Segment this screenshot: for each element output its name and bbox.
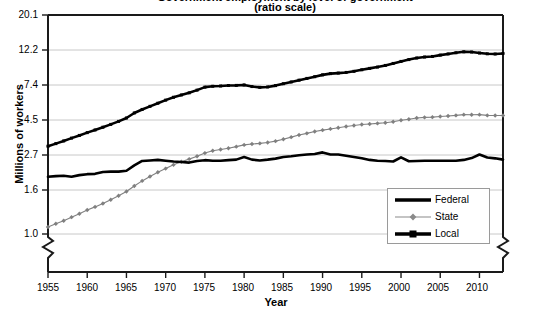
marker-local [313, 75, 316, 78]
marker-local [360, 68, 363, 71]
plot-area [0, 0, 552, 316]
marker-local [345, 71, 348, 74]
marker-local [400, 60, 403, 63]
marker-local [486, 52, 489, 55]
marker-local [164, 99, 167, 102]
marker-local [94, 128, 97, 131]
marker-local [243, 83, 246, 86]
marker-local [211, 85, 214, 88]
marker-local [133, 111, 136, 114]
marker-local [117, 120, 120, 123]
legend-label-federal: Federal [435, 193, 469, 207]
marker-local [282, 82, 285, 85]
marker-local [423, 56, 426, 59]
marker-local [196, 89, 199, 92]
chart-legend: Federal State Local [387, 188, 490, 244]
marker-local [298, 79, 301, 82]
marker-local [384, 64, 387, 67]
marker-local [70, 137, 73, 140]
legend-key-local-icon [393, 226, 433, 242]
marker-local [227, 84, 230, 87]
marker-local [462, 50, 465, 53]
marker-local [337, 72, 340, 75]
marker-local [188, 91, 191, 94]
marker-local [47, 145, 50, 148]
marker-local [305, 77, 308, 80]
chart-figure: Government employment by level of govern… [0, 0, 552, 316]
marker-local [172, 96, 175, 99]
marker-local [235, 84, 238, 87]
legend-key-federal-icon [393, 192, 433, 208]
marker-local [203, 86, 206, 89]
marker-local [101, 126, 104, 129]
marker-local [392, 62, 395, 65]
marker-local [454, 51, 457, 54]
marker-local [62, 139, 65, 142]
marker-local [274, 84, 277, 87]
marker-local [258, 86, 261, 89]
legend-label-state: State [435, 210, 458, 224]
legend-entry-federal: Federal [393, 192, 487, 208]
marker-local [78, 134, 81, 137]
legend-entry-local: Local [393, 226, 487, 242]
marker-local [321, 73, 324, 76]
marker-local [502, 52, 505, 55]
legend-key-state-icon [393, 209, 433, 225]
marker-local [156, 102, 159, 105]
marker-local [439, 54, 442, 57]
marker-local [368, 67, 371, 70]
marker-local [470, 51, 473, 54]
marker-local [54, 142, 57, 145]
marker-local [494, 52, 497, 55]
marker-local [415, 57, 418, 60]
legend-entry-state: State [393, 209, 487, 225]
marker-local [431, 55, 434, 58]
marker-local [125, 117, 128, 120]
marker-local [478, 52, 481, 55]
marker-local [376, 66, 379, 69]
marker-local [352, 70, 355, 73]
marker-local [180, 93, 183, 96]
marker-local [86, 131, 89, 134]
marker-local [141, 108, 144, 111]
marker-local [447, 52, 450, 55]
marker-local [290, 80, 293, 83]
marker-local [109, 123, 112, 126]
marker-local [266, 85, 269, 88]
marker-local [148, 105, 151, 108]
marker-local [407, 58, 410, 61]
marker-local [219, 84, 222, 87]
marker-local [250, 85, 253, 88]
marker-local [329, 72, 332, 75]
legend-label-local: Local [435, 227, 459, 241]
